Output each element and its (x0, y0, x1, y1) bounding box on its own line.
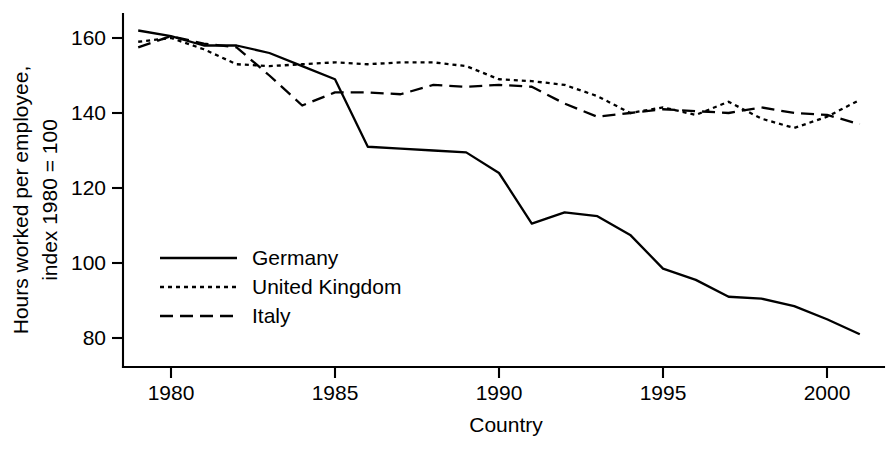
x-tick-label: 1995 (640, 381, 687, 404)
chart-legend: GermanyUnited KingdomItaly (160, 246, 401, 327)
legend-item-italy[interactable]: Italy (160, 304, 291, 327)
y-tick-label: 120 (71, 176, 106, 199)
y-tick-label: 100 (71, 251, 106, 274)
x-tick-label: 2000 (804, 381, 851, 404)
x-tick-label: 1980 (148, 381, 195, 404)
legend-item-united-kingdom[interactable]: United Kingdom (160, 275, 401, 298)
x-tick-1995: 1995 (640, 367, 687, 404)
x-tick-1985: 1985 (312, 367, 359, 404)
y-axis-title-line1: Hours worked per employee, (9, 66, 32, 334)
chart-canvas: Hours worked per employee, index 1980 = … (0, 0, 890, 450)
y-tick-160: 160 (71, 26, 123, 49)
line-chart: Hours worked per employee, index 1980 = … (0, 0, 890, 450)
y-tick-label: 160 (71, 26, 106, 49)
y-tick-label: 140 (71, 101, 106, 124)
y-tick-80: 80 (83, 326, 123, 349)
x-tick-1990: 1990 (476, 367, 523, 404)
x-tick-label: 1985 (312, 381, 359, 404)
x-axis-ticks: 19801985199019952000 (148, 367, 851, 404)
series-line-united-kingdom (138, 38, 860, 128)
legend-item-germany[interactable]: Germany (160, 246, 339, 269)
x-tick-label: 1990 (476, 381, 523, 404)
x-axis-title: Country (469, 413, 543, 436)
legend-label: Germany (252, 246, 339, 269)
data-series-group (138, 31, 860, 335)
legend-label: United Kingdom (252, 275, 401, 298)
y-axis-title-line2: index 1980 = 100 (38, 119, 61, 281)
y-tick-100: 100 (71, 251, 123, 274)
y-tick-label: 80 (83, 326, 106, 349)
series-line-germany (138, 31, 860, 335)
x-tick-2000: 2000 (804, 367, 851, 404)
y-axis-ticks: 80100120140160 (71, 26, 123, 349)
y-axis-title: Hours worked per employee, index 1980 = … (9, 66, 61, 334)
x-tick-1980: 1980 (148, 367, 195, 404)
y-tick-140: 140 (71, 101, 123, 124)
legend-label: Italy (252, 304, 291, 327)
y-tick-120: 120 (71, 176, 123, 199)
